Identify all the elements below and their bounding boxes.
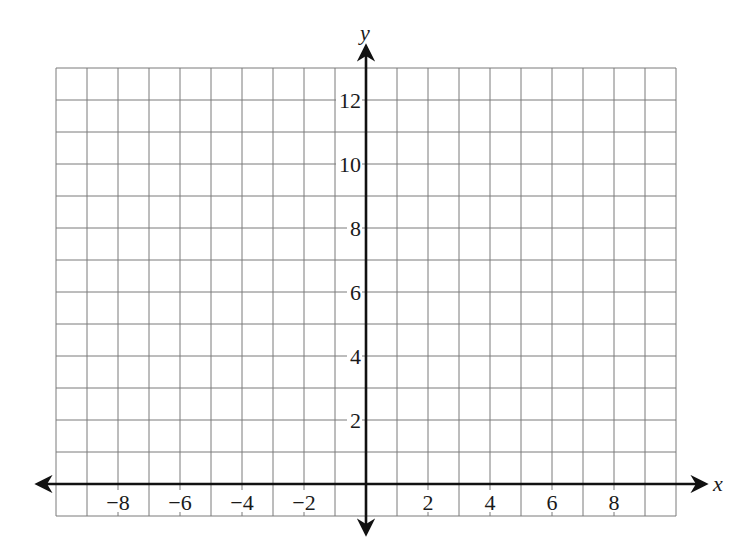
x-axis-label: x [712, 471, 723, 496]
x-tick-label: 6 [547, 490, 558, 515]
y-axis-label: y [358, 20, 370, 45]
coordinate-plane: −8−6−4−22468 24681012 x y [0, 0, 743, 555]
y-tick-label: 2 [350, 408, 361, 433]
x-tick-label: −8 [106, 490, 129, 515]
y-tick-label: 12 [339, 88, 361, 113]
y-tick-label: 8 [350, 216, 361, 241]
x-tick-label: 4 [485, 490, 496, 515]
x-tick-label: −2 [292, 490, 315, 515]
x-tick-label: −4 [230, 490, 253, 515]
x-tick-label: 2 [423, 490, 434, 515]
y-tick-label: 6 [350, 280, 361, 305]
x-tick-label: 8 [609, 490, 620, 515]
y-tick-label: 4 [350, 344, 361, 369]
x-tick-label: −6 [168, 490, 191, 515]
axes [38, 47, 705, 533]
y-tick-label: 10 [339, 152, 361, 177]
